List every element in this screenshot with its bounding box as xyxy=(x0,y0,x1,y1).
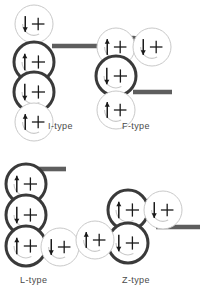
diagram-canvas: I-type F-type L-type Z-type xyxy=(0,0,208,294)
caption-f-type: F-type xyxy=(122,121,150,131)
figure-z-type xyxy=(76,190,200,263)
node-f-type-2 xyxy=(96,56,136,96)
figure-l-type xyxy=(6,164,79,266)
node-z-type-3 xyxy=(76,221,114,259)
node-l-type-2 xyxy=(6,226,46,266)
figure-f-type xyxy=(96,28,172,129)
node-z-type-1 xyxy=(144,191,182,229)
caption-l-type: L-type xyxy=(20,275,47,285)
caption-i-type: I-type xyxy=(48,121,73,131)
node-l-type-3 xyxy=(41,228,79,266)
node-f-type-1 xyxy=(133,28,171,66)
caption-z-type: Z-type xyxy=(122,275,150,285)
skyrmion-chain-diagram xyxy=(0,0,208,294)
node-i-type-0 xyxy=(15,5,53,43)
